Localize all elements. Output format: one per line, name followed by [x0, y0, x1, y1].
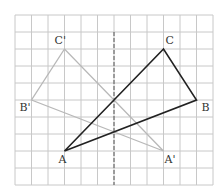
- vertex-label-a-prime: A': [164, 153, 176, 166]
- vertex-label-c-prime: C': [55, 34, 66, 47]
- reflection-diagram: ABCA'B'C': [0, 0, 223, 195]
- vertex-label-b-prime: B': [20, 101, 31, 114]
- vertex-label-a: A: [58, 153, 68, 166]
- vertex-label-b: B: [202, 101, 210, 114]
- vertex-label-c: C: [166, 34, 174, 47]
